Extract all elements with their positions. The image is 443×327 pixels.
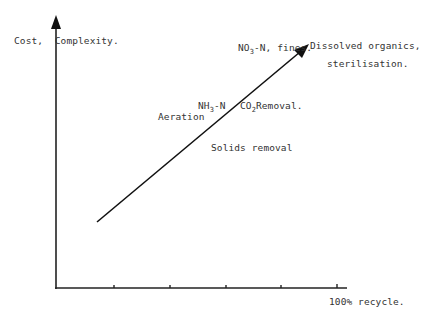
y-axis-arrowhead-icon <box>51 15 61 29</box>
x-axis-end-label: 100% recycle. <box>329 296 405 307</box>
label-sterilisation: sterilisation. <box>327 58 408 69</box>
y-axis-label: Cost, Complexity. <box>14 35 119 46</box>
label-no3-fines: NO3-N, fines. <box>238 42 312 56</box>
label-solids-removal: Solids removal <box>211 142 292 153</box>
label-dissolved-organics: Dissolved organics, <box>310 40 421 51</box>
label-nh3-n: NH3-N <box>198 100 226 114</box>
label-co2-removal: CO2Removal. <box>240 100 303 114</box>
trend-arrow-line <box>97 52 300 222</box>
